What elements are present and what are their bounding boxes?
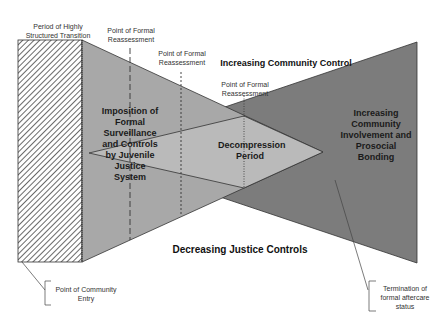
decompression-label: Decompression Period (218, 140, 282, 162)
diagram-canvas (0, 0, 442, 328)
community-involvement-label: Increasing Community Involvement and Pro… (340, 108, 412, 163)
structured-transition-label: Period of Highly Structured Transition (22, 22, 94, 40)
community-entry-label: Point of Community Entry (54, 285, 118, 303)
increasing-community-control-label: Increasing Community Control (218, 58, 354, 68)
decreasing-justice-controls-label: Decreasing Justice Controls (160, 244, 320, 255)
reassessment-label-3: Point of Formal Reassessment (214, 80, 276, 98)
community-entry-bracket (45, 281, 51, 305)
structured-transition-block (18, 40, 82, 262)
reassessment-label-1: Point of Formal Reassessment (100, 26, 162, 44)
termination-bracket (369, 281, 376, 311)
reassessment-label-2: Point of Formal Reassessment (151, 49, 213, 67)
imposition-label: Imposition of Formal Surveillance and Co… (98, 106, 162, 183)
termination-label: Termination of formal aftercare status (376, 284, 434, 311)
community-entry-leader (22, 262, 45, 290)
